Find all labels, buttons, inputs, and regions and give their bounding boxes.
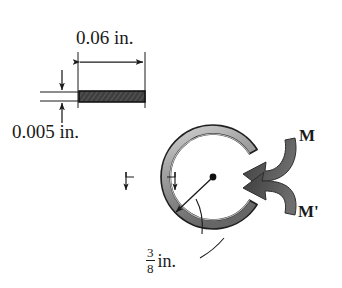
thickness-dimension-label: 0.005 in. — [12, 122, 79, 141]
thickness-dimension — [40, 70, 80, 123]
engineering-figure: 0.06 in. 0.005 in. M M' 3 8 in. — [0, 0, 342, 288]
radius-numerator: 3 — [146, 246, 155, 260]
radius-unit: in. — [158, 252, 177, 270]
radius-dimension-label: 3 8 in. — [146, 246, 176, 276]
width-dimension-label: 0.06 in. — [76, 28, 134, 47]
moment-label-m-prime: M' — [298, 203, 319, 220]
radius-fraction: 3 8 — [146, 246, 155, 276]
moment-label-m: M — [299, 127, 315, 144]
figure-drawing-canvas — [0, 0, 342, 288]
radius-arrow — [176, 178, 212, 212]
radius-denominator: 8 — [146, 261, 155, 275]
rectangular-bar-cross-section — [79, 91, 145, 102]
